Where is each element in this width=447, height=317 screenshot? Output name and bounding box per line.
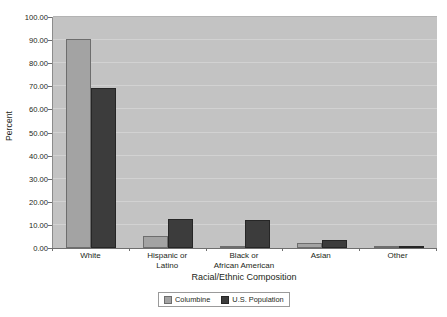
chart-legend: ColumbineU.S. Population bbox=[158, 292, 290, 307]
x-axis-tick-mark bbox=[436, 248, 437, 251]
bar bbox=[66, 39, 91, 248]
bar-chart-figure: Percent 100.0090.0080.0070.0060.0050.004… bbox=[0, 0, 447, 317]
x-axis-tick-label-line: White bbox=[52, 251, 129, 261]
y-axis-tick-label: 70.00 bbox=[2, 82, 48, 91]
y-axis-tick-label: 10.00 bbox=[2, 221, 48, 230]
legend-swatch-icon bbox=[164, 296, 172, 304]
bar bbox=[322, 240, 347, 248]
y-axis-tick-label: 60.00 bbox=[2, 105, 48, 114]
x-axis-tick-label: Asian bbox=[282, 251, 359, 261]
bar-group bbox=[66, 17, 116, 248]
x-axis-tick-mark bbox=[129, 248, 130, 251]
y-axis-tick-label: 90.00 bbox=[2, 36, 48, 45]
plot-area bbox=[52, 17, 437, 249]
x-axis-tick-mark bbox=[282, 248, 283, 251]
x-axis-tick-label: White bbox=[52, 251, 129, 261]
bar bbox=[399, 246, 424, 248]
bar bbox=[168, 219, 193, 248]
bar-group bbox=[297, 17, 347, 248]
x-axis-tick-mark bbox=[359, 248, 360, 251]
bar-group bbox=[143, 17, 193, 248]
y-axis-tick-label: 40.00 bbox=[2, 152, 48, 161]
x-axis-tick-label-line: Hispanic or bbox=[129, 251, 206, 261]
bar bbox=[143, 236, 168, 248]
bar bbox=[245, 220, 270, 248]
legend-item: U.S. Population bbox=[221, 295, 283, 304]
x-axis-tick-label-line: Asian bbox=[282, 251, 359, 261]
x-axis-tick-label-line: African American bbox=[206, 261, 283, 271]
y-axis-tick-label: 0.00 bbox=[2, 244, 48, 253]
legend-swatch-icon bbox=[221, 296, 229, 304]
x-axis-tick-label: Black orAfrican American bbox=[206, 251, 283, 270]
legend-item-label: Columbine bbox=[175, 295, 210, 304]
x-axis-tick-label-line: Black or bbox=[206, 251, 283, 261]
x-axis-tick-mark bbox=[52, 248, 53, 251]
legend-item: Columbine bbox=[164, 295, 210, 304]
y-axis-tick-label: 20.00 bbox=[2, 198, 48, 207]
bars-layer bbox=[53, 17, 437, 248]
bar bbox=[220, 246, 245, 248]
y-axis-tick-label: 50.00 bbox=[2, 129, 48, 138]
x-axis-tick-mark bbox=[206, 248, 207, 251]
legend-item-label: U.S. Population bbox=[232, 295, 283, 304]
y-axis-tick-label: 80.00 bbox=[2, 59, 48, 68]
bar-group bbox=[220, 17, 270, 248]
bar bbox=[91, 88, 116, 248]
x-axis-title: Racial/Ethnic Composition bbox=[52, 272, 436, 282]
bar-group bbox=[374, 17, 424, 248]
bar bbox=[297, 243, 322, 248]
x-axis-tick-label-line: Other bbox=[359, 251, 436, 261]
x-axis-tick-label: Hispanic orLatino bbox=[129, 251, 206, 270]
x-axis-tick-label: Other bbox=[359, 251, 436, 261]
y-axis-tick-label: 30.00 bbox=[2, 175, 48, 184]
x-axis-tick-label-line: Latino bbox=[129, 261, 206, 271]
bar bbox=[374, 246, 399, 248]
y-axis-tick-label: 100.00 bbox=[2, 13, 48, 22]
